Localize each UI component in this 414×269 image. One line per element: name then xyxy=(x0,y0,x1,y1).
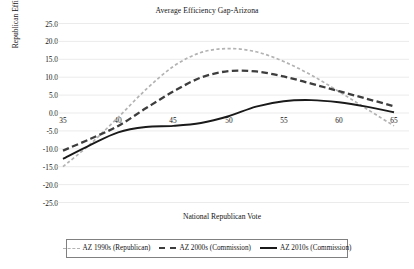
x-tick-label: 35 xyxy=(59,117,66,124)
x-tick-label: 65 xyxy=(390,117,397,124)
x-tick-label: 40 xyxy=(114,117,121,124)
legend-swatch-solid-icon xyxy=(260,247,277,249)
x-tick-label: 60 xyxy=(335,117,342,124)
y-axis-tick-labels: 25.0 20.0 15.0 10.0 5.0 0.0 -5.0 -10.0 -… xyxy=(14,0,58,269)
gridlines xyxy=(57,24,409,203)
x-axis-label: National Republican Vote xyxy=(40,212,404,221)
legend-item-az-1990s[interactable]: AZ 1990s (Republican) xyxy=(63,245,151,252)
plot-area xyxy=(0,0,414,269)
y-tick-label: -25.0 xyxy=(16,200,58,207)
chart-title: Average Efficiency Gap-Arizona xyxy=(0,6,414,15)
y-tick-label: -20.0 xyxy=(16,182,58,189)
chart-container: Average Efficiency Gap-Arizona Republica… xyxy=(0,0,414,269)
x-tick-label: 55 xyxy=(280,117,287,124)
legend-swatch-long-dashed-icon xyxy=(159,247,176,249)
x-tick-label: 45 xyxy=(169,117,176,124)
y-tick-label: -10.0 xyxy=(16,146,58,153)
x-tick-label: 50 xyxy=(225,117,232,124)
y-tick-label: 20.0 xyxy=(16,38,58,45)
legend-item-az-2000s[interactable]: AZ 2000s (Commission) xyxy=(159,245,250,252)
legend-label: AZ 2010s (Commission) xyxy=(280,245,351,252)
legend-item-az-2010s[interactable]: AZ 2010s (Commission) xyxy=(260,245,351,252)
series-line-2 xyxy=(63,100,394,159)
y-tick-label: -5.0 xyxy=(16,128,58,135)
legend-label: AZ 2000s (Commission) xyxy=(179,245,250,252)
series-line-0 xyxy=(63,49,394,167)
chart-legend: AZ 1990s (Republican) AZ 2000s (Commissi… xyxy=(66,239,348,258)
y-tick-label: 10.0 xyxy=(16,74,58,81)
y-tick-label: 5.0 xyxy=(16,92,58,99)
y-tick-label: -15.0 xyxy=(16,164,58,171)
series-lines xyxy=(63,49,394,167)
legend-swatch-fine-dashed-icon xyxy=(63,248,80,249)
legend-label: AZ 1990s (Republican) xyxy=(83,245,151,252)
series-line-1 xyxy=(63,71,394,151)
y-tick-label: 25.0 xyxy=(16,21,58,28)
y-tick-label: 15.0 xyxy=(16,56,58,63)
y-tick-label: 0.0 xyxy=(16,110,58,117)
